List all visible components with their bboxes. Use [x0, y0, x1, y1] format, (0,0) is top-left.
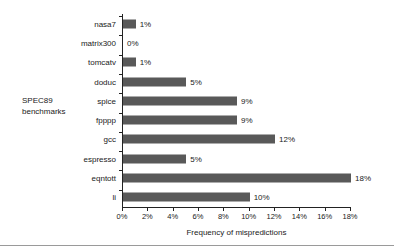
bar-value-label: 12%: [279, 135, 295, 144]
y-axis-tick: [119, 55, 122, 56]
bar: [123, 116, 237, 125]
y-axis-tick: [119, 132, 122, 133]
bar-row: li10%: [122, 188, 350, 207]
bar-value-label: 0%: [127, 38, 139, 47]
bottom-divider: [0, 245, 394, 246]
bar: [123, 174, 351, 183]
plot-area: nasa71%matrix3000%tomcatv1%doduc5%spice9…: [122, 14, 350, 207]
bar-row: matrix3000%: [122, 33, 350, 52]
y-axis-tick: [119, 35, 122, 36]
bar-row: doduc5%: [122, 72, 350, 91]
bar: [123, 58, 136, 67]
y-axis-tick: [119, 16, 122, 17]
x-axis-tick-label: 0%: [117, 212, 128, 221]
x-axis-tick-label: 14%: [292, 212, 307, 221]
bar-category-label: doduc: [94, 77, 116, 86]
x-axis-tick: [249, 207, 250, 211]
x-axis-tick: [350, 207, 351, 211]
bar-category-label: gcc: [104, 135, 116, 144]
x-axis-tick-label: 18%: [342, 212, 357, 221]
bar-category-label: eqntott: [92, 174, 116, 183]
x-axis-tick-label: 12%: [266, 212, 281, 221]
x-axis-tick-label: 4%: [167, 212, 178, 221]
y-axis-tick: [119, 170, 122, 171]
x-axis-tick: [147, 207, 148, 211]
bar-category-label: matrix300: [81, 38, 116, 47]
y-axis-tick: [119, 74, 122, 75]
bar-value-label: 10%: [254, 193, 270, 202]
bar-value-label: 18%: [355, 174, 371, 183]
x-axis-tick: [122, 207, 123, 211]
bar: [123, 135, 275, 144]
x-axis-tick: [299, 207, 300, 211]
x-axis-tick-label: 16%: [317, 212, 332, 221]
bar-category-label: li: [112, 193, 116, 202]
x-axis-title: Frequency of mispredictions: [122, 228, 351, 237]
y-axis-title: SPEC89 benchmarks: [22, 96, 96, 117]
bar-category-label: fpppp: [96, 116, 116, 125]
bar-value-label: 9%: [241, 96, 253, 105]
bar-category-label: tomcatv: [88, 58, 116, 67]
bar-row: nasa71%: [122, 14, 350, 33]
bar-value-label: 5%: [190, 77, 202, 86]
bar: [123, 77, 186, 86]
bar-category-label: spice: [97, 96, 116, 105]
x-axis-tick-label: 6%: [193, 212, 204, 221]
x-axis-tick-label: 10%: [241, 212, 256, 221]
bar-row: espresso5%: [122, 149, 350, 168]
y-axis-tick: [119, 113, 122, 114]
x-axis-tick: [198, 207, 199, 211]
x-axis-tick: [223, 207, 224, 211]
bar-value-label: 5%: [190, 154, 202, 163]
x-axis-tick: [325, 207, 326, 211]
bar: [123, 96, 237, 105]
bar-category-label: espresso: [84, 154, 116, 163]
y-axis-tick: [119, 151, 122, 152]
bar-category-label: nasa7: [94, 19, 116, 28]
x-axis-tick: [274, 207, 275, 211]
bar-row: tomcatv1%: [122, 53, 350, 72]
bar: [123, 193, 250, 202]
bar-row: spice9%: [122, 91, 350, 110]
x-axis-tick-label: 8%: [218, 212, 229, 221]
x-axis-tick: [173, 207, 174, 211]
chart-figure: SPEC89 benchmarks nasa71%matrix3000%tomc…: [0, 0, 394, 252]
bar: [123, 154, 186, 163]
x-axis-line: [122, 207, 351, 208]
x-axis-tick-label: 2%: [142, 212, 153, 221]
bar-value-label: 9%: [241, 116, 253, 125]
bar-value-label: 1%: [140, 19, 152, 28]
bar: [123, 19, 136, 28]
bar-row: gcc12%: [122, 130, 350, 149]
bar-row: fpppp9%: [122, 111, 350, 130]
bar-row: eqntott18%: [122, 168, 350, 187]
y-axis-tick: [119, 93, 122, 94]
bar-value-label: 1%: [140, 58, 152, 67]
y-axis-tick: [119, 190, 122, 191]
